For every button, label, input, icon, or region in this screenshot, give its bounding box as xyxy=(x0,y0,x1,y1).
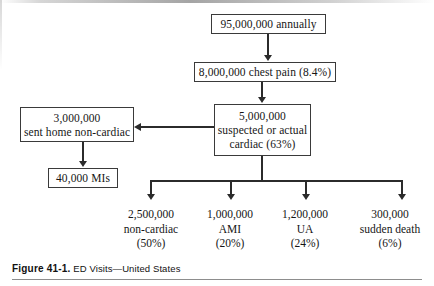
arrowhead-outcome-3 xyxy=(302,194,310,200)
connector-outcome-bus xyxy=(150,180,403,182)
node-mis: 40,000 MIs xyxy=(48,168,118,188)
node-cardiac-line2: suspected or actual xyxy=(218,123,307,137)
node-cardiac-line1: 5,000,000 xyxy=(239,109,286,123)
outcome-label-ua: 1,200,000 UA (24%) xyxy=(264,207,346,251)
connector-total-to-chestpain xyxy=(267,34,269,56)
node-cardiac-line3: cardiac (63%) xyxy=(229,137,295,151)
arrowhead-senthome-to-mis xyxy=(79,161,87,167)
connector-bus-to-outcome-4 xyxy=(401,180,403,195)
connector-bus-to-outcome-1 xyxy=(150,180,152,195)
arrowhead-outcome-1 xyxy=(147,194,155,200)
outcome-2-count: 1,000,000 xyxy=(189,207,271,222)
node-total-visits-line1: 95,000,000 annually xyxy=(220,17,316,31)
node-total-visits: 95,000,000 annually xyxy=(211,14,326,34)
scan-edge-top xyxy=(0,0,434,3)
arrowhead-outcome-2 xyxy=(227,194,235,200)
outcome-label-non-cardiac: 2,500,000 non-cardiac (50%) xyxy=(110,207,192,251)
outcome-3-name: UA xyxy=(264,222,346,237)
outcome-4-name: sudden death xyxy=(349,222,431,237)
connector-senthome-to-mis xyxy=(82,142,84,162)
node-cardiac: 5,000,000 suspected or actual cardiac (6… xyxy=(214,104,311,156)
outcome-2-percent: (20%) xyxy=(189,236,271,251)
outcome-4-percent: (6%) xyxy=(349,236,431,251)
node-sent-home-line1: 3,000,000 xyxy=(54,111,101,125)
arrowhead-cardiac-to-senthome xyxy=(134,123,141,131)
figure-caption-title: ED Visits—United States xyxy=(73,263,180,274)
connector-cardiac-to-senthome xyxy=(141,126,214,128)
figure-caption: Figure 41-1. ED Visits—United States xyxy=(12,263,312,274)
outcome-2-name: AMI xyxy=(189,222,271,237)
arrowhead-outcome-4 xyxy=(398,194,406,200)
node-sent-home: 3,000,000 sent home non-cardiac xyxy=(20,107,134,142)
connector-chestpain-to-cardiac xyxy=(261,82,263,98)
outcome-1-count: 2,500,000 xyxy=(110,207,192,222)
connector-bus-to-outcome-3 xyxy=(305,180,307,195)
node-mis-line1: 40,000 MIs xyxy=(56,171,110,185)
outcome-4-count: 300,000 xyxy=(349,207,431,222)
outcome-3-count: 1,200,000 xyxy=(264,207,346,222)
node-chest-pain: 8,000,000 chest pain (8.4%) xyxy=(194,62,336,82)
node-chest-pain-line1: 8,000,000 chest pain (8.4%) xyxy=(199,65,331,79)
arrowhead-total-to-chestpain xyxy=(264,55,272,61)
node-sent-home-line2: sent home non-cardiac xyxy=(24,125,130,139)
outcome-1-percent: (50%) xyxy=(110,236,192,251)
connector-bus-to-outcome-2 xyxy=(230,180,232,195)
connector-cardiac-to-bus xyxy=(261,156,263,181)
figure-caption-label: Figure 41-1. xyxy=(12,263,71,274)
outcome-3-percent: (24%) xyxy=(264,236,346,251)
caption-divider xyxy=(12,279,422,280)
outcome-label-ami: 1,000,000 AMI (20%) xyxy=(189,207,271,251)
scan-edge-left xyxy=(0,0,2,286)
outcome-label-sudden-death: 300,000 sudden death (6%) xyxy=(349,207,431,251)
arrowhead-chestpain-to-cardiac xyxy=(258,97,266,103)
figure-page: 95,000,000 annually 8,000,000 chest pain… xyxy=(0,0,434,286)
outcome-1-name: non-cardiac xyxy=(110,222,192,237)
